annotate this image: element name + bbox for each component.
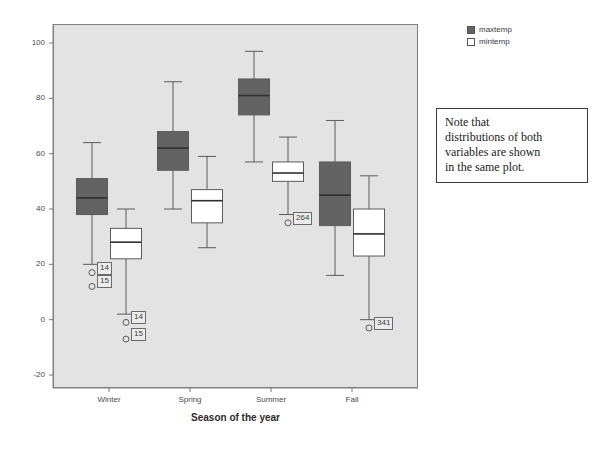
box-maxtemp-fall bbox=[320, 120, 351, 275]
chart-canvas: 100806040200-20 WinterSpringSummerFall 1… bbox=[0, 0, 602, 453]
x-tick-label-winter: Winter bbox=[79, 395, 139, 404]
annotation-note: Note that distributions of both variable… bbox=[436, 108, 588, 183]
y-axis-ticks bbox=[49, 43, 53, 375]
x-tick-label-spring: Spring bbox=[160, 395, 220, 404]
legend-swatch-mintemp bbox=[467, 38, 475, 46]
legend-item-maxtemp: maxtemp bbox=[467, 24, 512, 35]
x-axis-ticks bbox=[109, 388, 352, 392]
y-tick-label: 80 bbox=[19, 93, 45, 102]
outlier-label: 264 bbox=[293, 212, 312, 225]
y-tick-label: 60 bbox=[19, 149, 45, 158]
y-tick-label: 0 bbox=[19, 315, 45, 324]
boxplot-graphics bbox=[0, 0, 602, 453]
x-axis-title: Season of the year bbox=[53, 412, 418, 423]
box-maxtemp-summer bbox=[239, 51, 270, 162]
legend: maxtemp mintemp bbox=[467, 24, 512, 48]
outlier-label: 15 bbox=[131, 328, 146, 341]
box-mintemp-fall bbox=[354, 176, 385, 331]
outlier-label: 341 bbox=[374, 317, 393, 330]
outlier-label: 14 bbox=[97, 262, 112, 275]
legend-label-mintemp: mintemp bbox=[479, 37, 510, 46]
y-tick-label: 40 bbox=[19, 204, 45, 213]
outlier-label: 15 bbox=[97, 275, 112, 288]
annotation-line-3: variables are shown bbox=[445, 145, 579, 160]
legend-label-maxtemp: maxtemp bbox=[479, 25, 512, 34]
annotation-line-2: distributions of both bbox=[445, 130, 579, 145]
box-mintemp-spring bbox=[192, 156, 223, 247]
annotation-line-1: Note that bbox=[445, 115, 579, 130]
x-tick-label-fall: Fall bbox=[322, 395, 382, 404]
outlier-label: 14 bbox=[131, 311, 146, 324]
annotation-line-4: in the same plot. bbox=[445, 160, 579, 175]
y-tick-label: 20 bbox=[19, 259, 45, 268]
legend-swatch-maxtemp bbox=[467, 26, 475, 34]
y-tick-label: 100 bbox=[19, 38, 45, 47]
x-tick-label-summer: Summer bbox=[241, 395, 301, 404]
y-tick-label: -20 bbox=[19, 370, 45, 379]
box-maxtemp-spring bbox=[158, 82, 189, 209]
legend-item-mintemp: mintemp bbox=[467, 36, 512, 47]
